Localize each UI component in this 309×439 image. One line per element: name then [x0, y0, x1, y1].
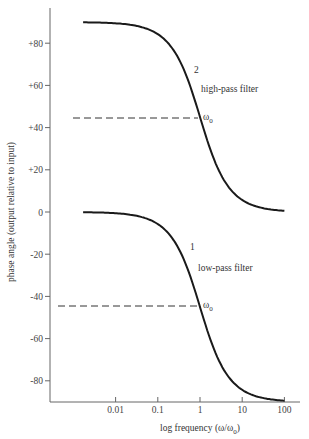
y-tick-label: 0 [38, 208, 43, 218]
high-pass-curve [83, 22, 284, 211]
y-tick-label: -80 [30, 376, 43, 386]
y-axis-title: phase angle (output relative to input) [6, 142, 17, 282]
y-tick-label: -20 [30, 250, 43, 260]
y-tick-label: +60 [28, 81, 43, 91]
y-tick-label: +80 [28, 39, 43, 49]
y-tick-label: -40 [30, 292, 43, 302]
x-tick-label: 0.1 [152, 405, 164, 415]
hp-name-label: high-pass filter [201, 84, 259, 94]
lp-number-label: 1 [190, 242, 195, 252]
hp-omega0-label: ω0 [203, 112, 213, 125]
y-tick-label: +20 [28, 165, 43, 175]
lp-name-label: low-pass filter [198, 263, 253, 273]
y-ticks: +80+60+40+200-20-40-60-80 [28, 39, 50, 387]
phase-plot: +80+60+40+200-20-40-60-80 0.010.1110100 … [0, 0, 309, 439]
x-tick-label: 0.01 [107, 405, 124, 415]
y-tick-label: -60 [30, 334, 43, 344]
x-tick-label: 10 [237, 405, 247, 415]
y-tick-label: +40 [28, 123, 43, 133]
x-ticks: 0.010.1110100 [107, 397, 291, 415]
x-tick-label: 1 [198, 405, 203, 415]
x-axis-title: log frequency (ω/ω0) [160, 423, 240, 436]
lp-omega0-label: ω0 [203, 300, 213, 313]
x-tick-label: 100 [277, 405, 292, 415]
hp-number-label: 2 [194, 65, 199, 75]
